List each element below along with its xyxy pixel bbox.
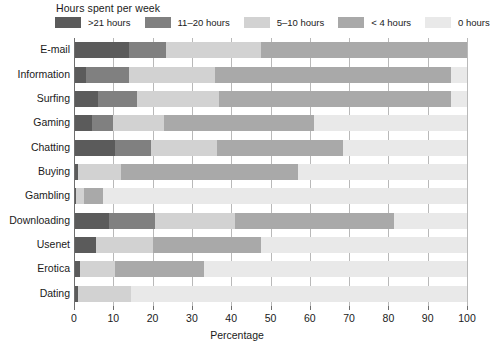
x-tick-30 xyxy=(192,306,193,310)
bar-row[interactable] xyxy=(74,91,467,107)
bar-series-group xyxy=(74,38,467,306)
bar-segment xyxy=(98,91,137,107)
bar-segment xyxy=(80,261,115,277)
y-axis-label-0: E-mail xyxy=(0,43,70,55)
bar-segment xyxy=(74,213,109,229)
bar-row[interactable] xyxy=(74,115,467,131)
bar-row[interactable] xyxy=(74,261,467,277)
bar-segment xyxy=(84,188,104,204)
y-axis-label-5: Buying xyxy=(0,165,70,177)
legend-item-0[interactable]: >21 hours xyxy=(55,17,145,28)
bar-segment xyxy=(74,140,115,156)
legend-swatch-icon xyxy=(338,17,364,28)
bar-segment xyxy=(131,286,467,302)
bar-segment xyxy=(219,91,451,107)
x-tick-90 xyxy=(428,306,429,310)
y-axis-label-2: Surfing xyxy=(0,92,70,104)
bar-segment xyxy=(113,115,164,131)
legend-swatch-icon xyxy=(244,17,270,28)
bar-segment xyxy=(76,188,84,204)
x-tick-label-60: 60 xyxy=(304,312,316,324)
x-tick-label-30: 30 xyxy=(186,312,198,324)
y-axis-line xyxy=(74,38,75,308)
x-tick-label-90: 90 xyxy=(422,312,434,324)
x-tick-70 xyxy=(349,306,350,310)
x-tick-label-70: 70 xyxy=(343,312,355,324)
x-tick-100 xyxy=(467,306,468,310)
bar-segment xyxy=(74,115,92,131)
gridline-100 xyxy=(467,38,468,306)
bar-segment xyxy=(153,237,261,253)
bar-row[interactable] xyxy=(74,286,467,302)
legend-item-label: < 4 hours xyxy=(371,17,411,28)
bar-segment xyxy=(394,213,467,229)
bar-row[interactable] xyxy=(74,67,467,83)
y-axis-label-9: Erotica xyxy=(0,262,70,274)
legend-swatch-icon xyxy=(55,17,81,28)
x-tick-40 xyxy=(231,306,232,310)
x-tick-label-10: 10 xyxy=(107,312,119,324)
bar-segment xyxy=(74,237,96,253)
x-tick-80 xyxy=(388,306,389,310)
bar-segment xyxy=(261,237,467,253)
bar-segment xyxy=(129,42,166,58)
legend-item-label: 11–20 hours xyxy=(178,17,230,28)
bar-segment xyxy=(155,213,236,229)
x-tick-label-0: 0 xyxy=(71,312,77,324)
bar-segment xyxy=(96,237,153,253)
bar-segment xyxy=(92,115,114,131)
legend-item-label: 5–10 hours xyxy=(277,17,325,28)
bar-segment xyxy=(115,261,203,277)
bar-segment xyxy=(151,140,218,156)
legend-item-label: 0 hours xyxy=(458,17,490,28)
x-tick-label-20: 20 xyxy=(147,312,159,324)
x-axis-tick-labels: 0102030405060708090100 xyxy=(0,312,474,326)
bar-row[interactable] xyxy=(74,140,467,156)
y-axis-label-6: Gambling xyxy=(0,189,70,201)
bar-segment xyxy=(164,115,313,131)
legend-item-3[interactable]: < 4 hours xyxy=(338,17,425,28)
bar-segment xyxy=(298,164,467,180)
x-tick-50 xyxy=(271,306,272,310)
legend-item-label: >21 hours xyxy=(88,17,131,28)
bar-segment xyxy=(129,67,215,83)
bar-segment xyxy=(204,261,467,277)
bar-row[interactable] xyxy=(74,164,467,180)
bar-segment xyxy=(115,140,150,156)
x-tick-label-40: 40 xyxy=(225,312,237,324)
x-tick-20 xyxy=(153,306,154,310)
bar-row[interactable] xyxy=(74,42,467,58)
x-axis-ticks xyxy=(74,306,467,311)
y-axis-label-10: Dating xyxy=(0,287,70,299)
legend-item-2[interactable]: 5–10 hours xyxy=(244,17,339,28)
bar-segment xyxy=(451,91,467,107)
legend-item-1[interactable]: 11–20 hours xyxy=(145,17,244,28)
y-axis-label-8: Usenet xyxy=(0,238,70,250)
bar-segment xyxy=(215,67,451,83)
bar-segment xyxy=(78,286,131,302)
bar-segment xyxy=(109,213,154,229)
bar-segment xyxy=(103,188,467,204)
legend-item-4[interactable]: 0 hours xyxy=(425,17,494,28)
bar-segment xyxy=(74,67,86,83)
bar-segment xyxy=(343,140,467,156)
bar-segment xyxy=(261,42,467,58)
bar-segment xyxy=(235,213,394,229)
bar-segment xyxy=(137,91,220,107)
bar-row[interactable] xyxy=(74,188,467,204)
bar-segment xyxy=(166,42,260,58)
x-tick-label-50: 50 xyxy=(265,312,277,324)
bar-row[interactable] xyxy=(74,213,467,229)
bar-segment xyxy=(86,67,129,83)
bar-row[interactable] xyxy=(74,237,467,253)
legend-title: Hours spent per week xyxy=(56,2,470,14)
bar-segment xyxy=(451,67,467,83)
bar-segment xyxy=(121,164,298,180)
x-tick-label-100: 100 xyxy=(458,312,476,324)
y-axis-label-3: Gaming xyxy=(0,116,70,128)
bar-segment xyxy=(78,164,121,180)
y-axis-label-1: Information xyxy=(0,68,70,80)
chart-legend: Hours spent per week >21 hours11–20 hour… xyxy=(55,2,470,28)
x-axis-title: Percentage xyxy=(0,329,474,341)
